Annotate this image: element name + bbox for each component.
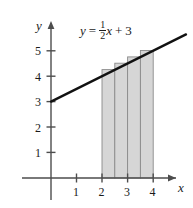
riemann-rect — [140, 51, 153, 179]
y-axis-arrowhead — [48, 21, 55, 29]
riemann-rect — [128, 57, 141, 178]
equation-variable: x — [106, 23, 112, 38]
equation-lhs: y — [80, 23, 86, 38]
x-tick-label-4: 4 — [150, 186, 156, 198]
x-tick-label-3: 3 — [124, 186, 130, 198]
y-tick-label-5: 5 — [35, 45, 41, 57]
equation-label: y=12x+3 — [80, 20, 132, 41]
riemann-rect — [102, 70, 115, 178]
riemann-rectangles — [102, 51, 153, 179]
equation-plus: + — [115, 23, 122, 38]
y-tick-label-1: 1 — [35, 147, 41, 159]
y-tick-label-4: 4 — [35, 71, 41, 83]
y-axis-label: y — [36, 19, 42, 32]
x-tick-label-2: 2 — [99, 186, 105, 198]
y-tick-label-3: 3 — [35, 96, 41, 108]
x-axis-label: x — [178, 181, 184, 194]
x-tick-label-1: 1 — [73, 186, 79, 198]
graph-figure: y x 1 2 3 4 5 1 2 3 4 y=12x+3 — [0, 0, 193, 208]
x-axis-arrowhead — [168, 175, 176, 182]
y-axis — [48, 21, 55, 200]
equation-constant: 3 — [125, 23, 132, 38]
y-tick-label-2: 2 — [35, 122, 41, 134]
riemann-rect — [115, 63, 128, 178]
equation-equals: = — [89, 23, 96, 38]
